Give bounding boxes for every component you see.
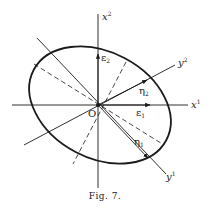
x1-label: x1 [191, 98, 200, 110]
eta1-label: η1 [134, 136, 144, 148]
y2-label: y2 [177, 56, 188, 68]
origin-point [96, 103, 100, 107]
dashed-diameter-2 [73, 62, 126, 164]
ellipse-diagram: O x2 x1 y2 y1 ε2 ε1 η2 η1 [0, 0, 210, 209]
y1-label: y1 [165, 170, 175, 182]
x2-label: x2 [102, 10, 112, 22]
xi2-label: ε2 [101, 52, 110, 64]
xi1-label: ε1 [136, 107, 145, 119]
origin-label: O [88, 108, 96, 119]
figure-caption: Fig. 7. [0, 191, 210, 201]
eta2-label: η2 [139, 85, 149, 97]
